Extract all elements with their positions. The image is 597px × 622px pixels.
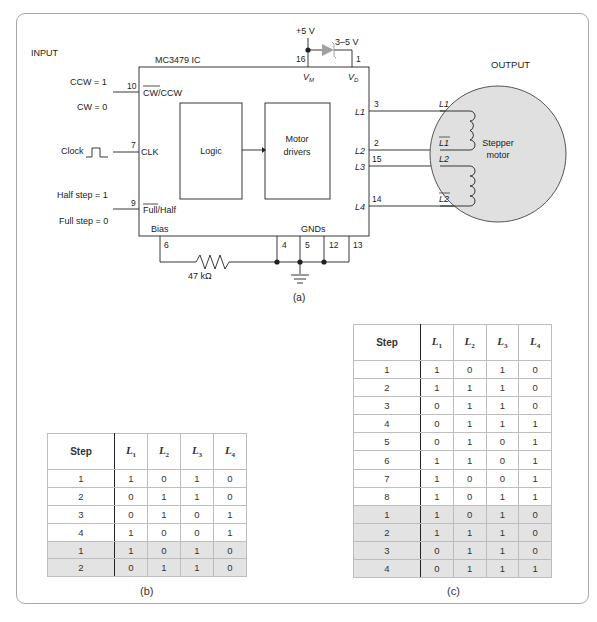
motor-label-line1: Stepper: [482, 138, 514, 148]
step-cell: 1: [48, 470, 115, 488]
table-row: 11010: [354, 505, 552, 523]
l1-cell: 0: [115, 559, 148, 577]
l4-cell: 0: [214, 559, 247, 577]
l1-cell: 1: [115, 470, 148, 488]
l2-cell: 1: [148, 505, 181, 523]
l3-cell: 1: [181, 487, 214, 505]
caption-a: (a): [293, 292, 305, 303]
gnd-pin-13: 13: [353, 240, 363, 250]
coil-l1-label: L1: [439, 99, 449, 109]
l3-cell: 1: [486, 487, 519, 505]
l1-cell: 1: [421, 379, 454, 397]
step-cell: 5: [354, 433, 421, 451]
resistor-label: 47 kΩ: [188, 271, 212, 281]
step-cell: 3: [354, 397, 421, 415]
l4-cell: 1: [519, 415, 552, 433]
pin14-label: 14: [372, 194, 382, 204]
l3-cell: 0: [486, 451, 519, 469]
junction-dot: [321, 259, 326, 264]
l3-cell: 1: [181, 559, 214, 577]
caption-c: (c): [447, 585, 460, 597]
l4-cell: 0: [214, 541, 247, 559]
l2-cell: 0: [453, 487, 486, 505]
svg-text:VM: VM: [303, 72, 314, 83]
bias-label: Bias: [151, 224, 169, 234]
step-cell: 2: [48, 559, 115, 577]
table-row: 21110: [354, 379, 552, 397]
pin9-label: 9: [131, 198, 136, 208]
logic-label: Logic: [200, 146, 222, 156]
l4-cell: 1: [519, 451, 552, 469]
table-row: 21110: [354, 523, 552, 541]
gnd-pin-12: 12: [329, 240, 339, 250]
l1-cell: 1: [115, 523, 148, 541]
pin3-label: 3: [374, 99, 379, 109]
l3-cell: 0: [181, 505, 214, 523]
l2-cell: 1: [453, 541, 486, 559]
l3-cell: 0: [486, 433, 519, 451]
coil-l2-bar-label: L2: [439, 194, 449, 204]
l1-cell: 0: [421, 433, 454, 451]
table-row: 11010: [48, 541, 247, 559]
resistor-47k: [196, 255, 229, 269]
svg-text:VD: VD: [348, 72, 359, 83]
caption-b: (b): [140, 585, 153, 597]
step-cell: 3: [48, 505, 115, 523]
l3-cell: 1: [181, 470, 214, 488]
ic-l1-label: L1: [355, 107, 365, 117]
junction-dot: [274, 259, 279, 264]
half-step-table: Step L1 L2 L3 L4 11010201103010141001110…: [47, 433, 247, 577]
l4-cell: 0: [519, 505, 552, 523]
l1-cell: 1: [421, 361, 454, 379]
step-cell: 6: [354, 451, 421, 469]
l1-cell: 1: [421, 451, 454, 469]
l2-cell: 1: [453, 415, 486, 433]
l2-cell: 1: [453, 451, 486, 469]
header-l2: L2: [148, 434, 181, 470]
l2-cell: 1: [453, 560, 486, 578]
l4-cell: 0: [214, 470, 247, 488]
l1-cell: 1: [421, 469, 454, 487]
cw-label: CW = 0: [77, 102, 107, 112]
l4-cell: 1: [214, 505, 247, 523]
l3-cell: 1: [486, 415, 519, 433]
pin16-label: 16: [296, 54, 306, 64]
header-step: Step: [354, 325, 421, 361]
junction-dot: [305, 47, 310, 52]
step-cell: 4: [354, 560, 421, 578]
table-row: 81011: [354, 487, 552, 505]
l4-cell: 0: [519, 541, 552, 559]
l2-cell: 1: [453, 433, 486, 451]
l1-cell: 1: [115, 541, 148, 559]
table-row: 40111: [354, 415, 552, 433]
ic-name: MC3479 IC: [155, 55, 201, 65]
clk-pin-label: CLK: [141, 147, 159, 157]
full-step-label: Full step = 0: [59, 216, 108, 226]
l1-cell: 0: [421, 415, 454, 433]
header-l1: L1: [115, 434, 148, 470]
l2-cell: 0: [453, 505, 486, 523]
step-cell: 3: [354, 541, 421, 559]
header-l2: L2: [453, 325, 486, 361]
diode-voltage-label: 3–5 V: [335, 37, 359, 47]
header-l3: L3: [486, 325, 519, 361]
step-cell: 1: [48, 541, 115, 559]
table-row: 30110: [354, 397, 552, 415]
l4-cell: 0: [519, 361, 552, 379]
l1-cell: 0: [421, 541, 454, 559]
l1-cell: 1: [421, 487, 454, 505]
table-row: 40111: [354, 560, 552, 578]
l4-cell: 0: [214, 487, 247, 505]
step-cell: 8: [354, 487, 421, 505]
l3-cell: 1: [486, 379, 519, 397]
l3-cell: 1: [181, 541, 214, 559]
ic-l2-label: L2: [355, 146, 365, 156]
l3-cell: 1: [486, 397, 519, 415]
header-l3: L3: [181, 434, 214, 470]
supply-label: +5 V: [296, 26, 315, 36]
table-row: 30101: [48, 505, 247, 523]
full-step-table: Step L1 L2 L3 L4 11010211103011040111501…: [353, 324, 552, 578]
l3-cell: 0: [486, 469, 519, 487]
l4-cell: 1: [214, 523, 247, 541]
step-cell: 4: [354, 415, 421, 433]
